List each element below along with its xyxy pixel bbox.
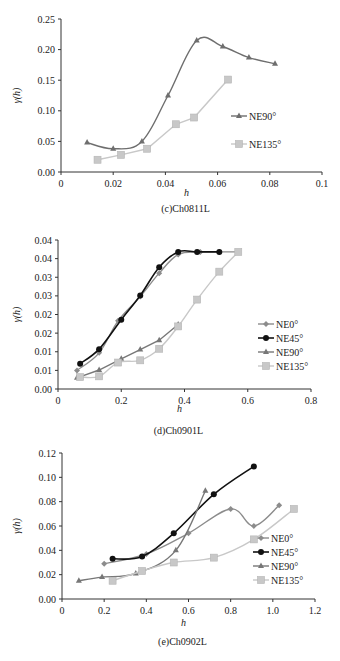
legend-label: NE135° [249, 139, 281, 150]
x-axis-label: h [181, 617, 186, 628]
series-line [98, 80, 229, 160]
legend-label: NE135° [276, 361, 308, 372]
circle-marker-icon [110, 556, 116, 562]
x-tick-label: 0 [59, 178, 64, 189]
chart-caption: (e)Ch0902L [158, 636, 207, 648]
y-tick-label: 0.01 [35, 365, 53, 376]
y-axis-label: γ(h) [11, 306, 23, 322]
circle-marker-icon [96, 346, 102, 352]
x-tick-label: 0.6 [182, 605, 195, 616]
legend-item: NE135° [258, 361, 308, 372]
square-marker-icon [210, 554, 217, 561]
square-marker-icon [118, 151, 125, 158]
series-ne45 [77, 249, 222, 367]
y-tick-label: 0.25 [38, 14, 56, 25]
legend-item: NE90° [253, 561, 298, 572]
y-tick-label: 0.10 [38, 105, 56, 116]
legend-label: NE45° [271, 547, 298, 558]
legend-label: NE0° [271, 533, 293, 544]
figure-canvas: 00.020.040.060.080.10.000.050.100.150.20… [0, 0, 340, 661]
y-tick-label: 0.01 [35, 346, 53, 357]
x-tick-label: 1.2 [309, 605, 322, 616]
x-tick-label: 0.4 [140, 605, 153, 616]
legend-label: NE90° [249, 111, 276, 122]
square-marker-icon [250, 536, 257, 543]
legend-circle-icon [263, 335, 269, 341]
square-marker-icon [290, 505, 297, 512]
series-ne90 [74, 321, 181, 380]
square-marker-icon [94, 156, 101, 163]
square-marker-icon [194, 296, 201, 303]
legend-item: NE0° [253, 533, 293, 544]
legend-item: NE135° [231, 139, 281, 150]
legend-label: NE90° [271, 561, 298, 572]
y-tick-label: 0.06 [39, 521, 57, 532]
y-tick-label: 0.04 [35, 235, 53, 246]
y-axis-label: γ(h) [11, 87, 23, 103]
series-ne45 [110, 463, 257, 561]
square-marker-icon [109, 577, 116, 584]
x-tick-label: 0.02 [104, 178, 122, 189]
legend-label: NE45° [276, 333, 303, 344]
legend-diamond-icon [263, 321, 269, 327]
x-tick-label: 0.6 [242, 395, 255, 406]
legend-label: NE90° [276, 347, 303, 358]
square-marker-icon [172, 121, 179, 128]
x-tick-label: 0 [56, 395, 61, 406]
y-tick-label: 0.08 [39, 496, 57, 507]
circle-marker-icon [216, 249, 222, 255]
diamond-marker-icon [228, 506, 234, 512]
triangle-marker-icon [84, 139, 90, 145]
series-ne135 [109, 505, 297, 584]
legend-label: NE135° [271, 575, 303, 586]
series-line [113, 466, 254, 559]
square-marker-icon [235, 248, 242, 255]
square-marker-icon [115, 359, 122, 366]
y-tick-label: 0.04 [39, 545, 57, 556]
triangle-marker-icon [202, 487, 208, 493]
legend-circle-icon [258, 549, 264, 555]
square-marker-icon [216, 268, 223, 275]
y-tick-label: 0.05 [38, 136, 56, 147]
y-tick-label: 0.10 [39, 472, 57, 483]
series-line [87, 37, 275, 149]
chart-ch0901l: 00.20.40.60.80.000.010.010.020.020.030.0… [11, 235, 317, 438]
y-tick-label: 0.02 [35, 328, 53, 339]
square-marker-icon [191, 114, 198, 121]
legend-square-icon [236, 141, 243, 148]
circle-marker-icon [118, 317, 124, 323]
x-tick-label: 0.04 [157, 178, 175, 189]
legend-item: NE90° [231, 111, 276, 122]
legend-item: NE90° [258, 347, 303, 358]
legend-square-icon [258, 577, 265, 584]
y-tick-label: 0.12 [39, 448, 57, 459]
legend-triangle-icon [263, 349, 269, 355]
circle-marker-icon [175, 249, 181, 255]
square-marker-icon [175, 323, 182, 330]
x-axis-label: h [184, 187, 189, 198]
legend-item: NE0° [258, 319, 298, 330]
legend-triangle-icon [236, 113, 242, 119]
x-tick-label: 0.2 [115, 395, 128, 406]
x-tick-label: 0.2 [98, 605, 111, 616]
triangle-marker-icon [110, 145, 116, 151]
legend-triangle-icon [258, 563, 264, 569]
chart-ch0811l: 00.020.040.060.080.10.000.050.100.150.20… [11, 14, 328, 216]
legend-label: NE0° [276, 319, 298, 330]
square-marker-icon [77, 374, 84, 381]
circle-marker-icon [171, 530, 177, 536]
square-marker-icon [137, 357, 144, 364]
chart-ch0902l: 00.20.40.60.81.01.20.000.020.040.060.080… [11, 448, 321, 649]
x-axis-label: h [177, 403, 182, 414]
circle-marker-icon [251, 463, 257, 469]
y-tick-label: 0.02 [35, 309, 53, 320]
diamond-marker-icon [251, 523, 257, 529]
y-tick-label: 0.02 [39, 569, 57, 580]
x-tick-label: 0.8 [305, 395, 318, 406]
y-tick-label: 0.15 [38, 75, 56, 86]
square-marker-icon [96, 373, 103, 380]
triangle-marker-icon [194, 37, 200, 43]
triangle-marker-icon [156, 337, 162, 343]
circle-marker-icon [139, 553, 145, 559]
square-marker-icon [170, 559, 177, 566]
